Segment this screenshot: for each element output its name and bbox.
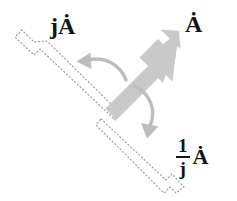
original-phasor-arrow (104, 29, 181, 121)
ccw-rotation-arc (77, 53, 127, 81)
label-cw-rotated-vector-symbol: Ȧ (193, 146, 209, 168)
phasor-rotation-figure: jȦ Ȧ 1 j Ȧ (0, 0, 237, 201)
fraction-denominator: j (178, 158, 188, 178)
label-original-phasor: Ȧ (185, 12, 202, 36)
fraction-numerator: 1 (176, 136, 190, 156)
fraction-one-over-j: 1 j (176, 136, 190, 178)
label-ccw-rotated-phasor: jȦ (50, 14, 75, 38)
ccw-rotated-phasor-outline (15, 30, 118, 118)
cw-rotated-phasor-outline (96, 119, 184, 193)
label-cw-rotated-phasor: 1 j Ȧ (176, 136, 208, 178)
